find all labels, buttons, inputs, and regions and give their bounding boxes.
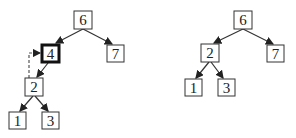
- right-tree-node-6: 6: [234, 11, 252, 29]
- edge-4-2: [37, 63, 48, 77]
- edge-r2-3: [211, 62, 223, 78]
- svg-text:2: 2: [30, 79, 38, 95]
- edge-2-1: [20, 96, 33, 111]
- right-tree-node-3: 3: [218, 79, 235, 96]
- left-tree-node-2: 2: [25, 78, 43, 96]
- right-tree-node-2: 2: [201, 44, 219, 62]
- svg-text:4: 4: [47, 46, 55, 62]
- svg-text:7: 7: [272, 46, 280, 62]
- edge-r2-1: [196, 62, 209, 78]
- edge-6-4: [56, 29, 83, 43]
- svg-text:1: 1: [190, 80, 198, 96]
- right-tree-node-1: 1: [185, 79, 202, 96]
- svg-text:3: 3: [47, 113, 55, 129]
- edge-2-3: [35, 96, 48, 111]
- left-tree-node-4-highlighted: 4: [42, 45, 59, 62]
- svg-text:6: 6: [239, 12, 247, 28]
- edge-6-7: [83, 29, 112, 44]
- bst-diagram: 6 4 7 2 1 3 6 2 7 1: [0, 0, 296, 138]
- edge-r6-7: [243, 29, 273, 44]
- left-tree-node-6: 6: [74, 11, 92, 29]
- left-tree-edges: [20, 29, 112, 111]
- svg-text:3: 3: [223, 80, 231, 96]
- left-tree-node-3: 3: [42, 112, 59, 129]
- edge-r6-2: [214, 29, 243, 43]
- right-tree-node-7: 7: [267, 45, 284, 62]
- svg-text:7: 7: [112, 46, 120, 62]
- left-tree-node-7: 7: [107, 45, 124, 62]
- dashed-replace-arrow: [29, 53, 40, 78]
- svg-text:6: 6: [79, 12, 87, 28]
- svg-text:1: 1: [14, 113, 22, 129]
- left-tree-node-1: 1: [9, 112, 26, 129]
- svg-text:2: 2: [206, 45, 214, 61]
